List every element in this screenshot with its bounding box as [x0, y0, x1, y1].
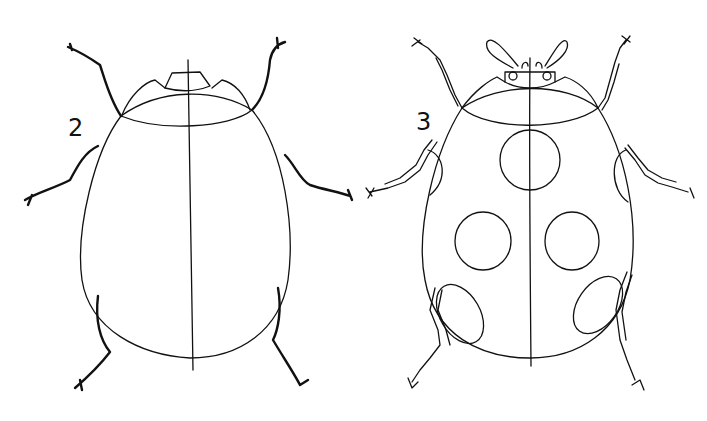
leg: [628, 145, 676, 182]
pronotum: [121, 94, 252, 126]
leg: [602, 64, 619, 110]
leg: [616, 272, 644, 390]
antenna-right: [545, 41, 568, 68]
spot: [455, 212, 511, 270]
center-line: [188, 60, 193, 370]
antenna-left: [487, 40, 518, 68]
leg: [366, 142, 437, 198]
leg: [436, 58, 458, 106]
body-outline: [81, 110, 291, 358]
center-line: [530, 58, 531, 366]
spot: [427, 276, 494, 351]
leg: [273, 288, 308, 385]
leg: [25, 146, 98, 205]
leg: [408, 288, 440, 388]
leg: [622, 275, 632, 340]
leg: [285, 155, 352, 200]
leg: [598, 36, 630, 108]
ladybug-drawing-steps: 2 3: [0, 0, 707, 421]
step-2-ladybug: [25, 38, 352, 390]
leg: [412, 38, 462, 108]
head: [165, 72, 210, 91]
body-outline: [422, 108, 633, 358]
step-3-ladybug: [366, 36, 694, 390]
leg: [252, 38, 285, 110]
leg: [68, 44, 121, 116]
spot: [545, 212, 599, 270]
